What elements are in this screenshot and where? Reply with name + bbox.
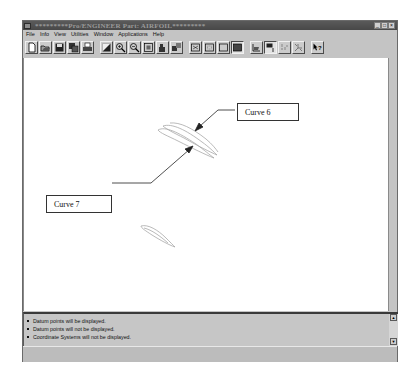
minimize-button[interactable]: _ [374,22,381,29]
coordinate-systems-icon [293,42,304,53]
save-copy-button[interactable] [67,41,80,54]
datum-points-button[interactable] [278,41,291,54]
window-title: *********Pro/ENGINEER Part: AIRFOIL*****… [35,22,205,30]
zoom-out-icon [129,42,140,53]
datum-points-icon [279,42,290,53]
callout-curve-7-label: Curve 7 [54,200,80,209]
saved-views-icon [171,42,182,53]
menu-utilities[interactable]: Utilities [71,31,89,37]
zoom-out-button[interactable] [128,41,141,54]
datum-planes-icon [251,42,262,53]
repaint-button[interactable] [100,41,113,54]
no-hidden-button[interactable] [217,41,230,54]
repaint-icon [101,42,112,53]
open-button[interactable] [39,41,52,54]
shading-button[interactable] [231,41,244,54]
menu-view[interactable]: View [54,31,66,37]
maximize-button[interactable]: □ [381,22,388,29]
bullet-icon [27,328,29,330]
menu-help[interactable]: Help [153,31,164,37]
datum-planes-button[interactable] [250,41,263,54]
zoom-in-button[interactable] [114,41,127,54]
menu-window[interactable]: Window [94,31,114,37]
menu-applications[interactable]: Applications [118,31,148,37]
bullet-icon [27,320,29,322]
bullet-icon [27,336,29,338]
message-scrollbar[interactable]: ▲ ▼ [389,312,398,346]
print-icon [82,42,93,53]
callout-curve-6: Curve 6 [237,103,299,121]
callout-curve-6-label: Curve 6 [245,108,271,117]
menu-file[interactable]: File [26,31,35,37]
menu-info[interactable]: Info [40,31,49,37]
zoom-in-icon [115,42,126,53]
window-controls: _ □ × [374,22,395,29]
saved-views-button[interactable] [170,41,183,54]
context-help-icon: ? [312,42,323,53]
callout-curve-7: Curve 7 [46,195,112,213]
coordinate-systems-button[interactable] [292,41,305,54]
message-line: Datum points will be displayed. [26,317,389,325]
message-text: Datum points will not be displayed. [33,325,115,333]
shading-icon [232,42,243,53]
close-button[interactable]: × [388,22,395,29]
wireframe-icon [190,42,201,53]
scroll-up-button[interactable]: ▲ [390,314,397,321]
app-icon[interactable] [24,23,31,29]
message-area: Datum points will be displayed. Datum po… [23,312,389,346]
datum-axes-icon [265,42,276,53]
save-copy-icon [68,42,79,53]
save-icon [54,42,65,53]
message-line: Coordinate Systems will not be displayed… [26,333,389,341]
context-help-button[interactable]: ? [311,41,324,54]
menu-bar: File Info View Utilities Window Applicat… [23,30,397,38]
refit-button[interactable] [142,41,155,54]
new-file-icon [26,42,37,53]
datum-axes-button[interactable] [264,41,277,54]
toolbar: ? [23,38,397,57]
scroll-down-button[interactable]: ▼ [390,338,397,345]
pro-engineer-window: *********Pro/ENGINEER Part: AIRFOIL*****… [22,20,398,362]
new-button[interactable] [25,41,38,54]
orient-button[interactable] [156,41,169,54]
wireframe-button[interactable] [189,41,202,54]
refit-icon [143,42,154,53]
hidden-line-icon [204,42,215,53]
graphics-window[interactable]: Curve 6 Curve 7 [23,58,389,311]
hidden-line-button[interactable] [203,41,216,54]
save-button[interactable] [53,41,66,54]
status-strip [23,346,397,362]
title-bar[interactable]: *********Pro/ENGINEER Part: AIRFOIL*****… [23,21,397,30]
message-text: Coordinate Systems will not be displayed… [33,333,131,341]
print-button[interactable] [81,41,94,54]
open-folder-icon [40,42,51,53]
message-line: Datum points will not be displayed. [26,325,389,333]
svg-text:?: ? [318,45,322,51]
no-hidden-icon [218,42,229,53]
orient-icon [157,42,168,53]
message-text: Datum points will be displayed. [33,317,106,325]
